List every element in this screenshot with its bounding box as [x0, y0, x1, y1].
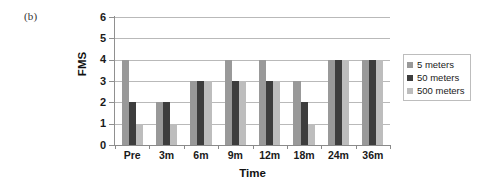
bar [136, 124, 143, 145]
x-tick-label: 36m [356, 150, 390, 161]
x-tick-label: 18m [287, 150, 321, 161]
bar [308, 124, 315, 145]
legend-item: 5 meters [407, 58, 465, 71]
y-tick-label: 0 [88, 140, 106, 151]
legend-swatch-icon [407, 88, 413, 94]
y-tick-label: 6 [88, 12, 106, 23]
legend-item: 500 meters [407, 84, 465, 97]
y-tick [109, 38, 114, 39]
x-tick [321, 145, 322, 149]
x-tick-label: 6m [184, 150, 218, 161]
y-tick-label: 5 [88, 33, 106, 44]
bar-group [225, 17, 246, 145]
y-tick-label: 3 [88, 76, 106, 87]
bar [170, 124, 177, 145]
bar [362, 60, 369, 145]
bar [293, 81, 300, 145]
x-tick-label: 3m [149, 150, 183, 161]
bar-group [293, 17, 314, 145]
legend-swatch-icon [407, 75, 413, 81]
y-tick-label: 1 [88, 118, 106, 129]
bar [190, 81, 197, 145]
bar [273, 81, 280, 145]
y-tick-label-wrap: 5 [88, 33, 106, 44]
x-tick [218, 145, 219, 149]
y-tick [109, 124, 114, 125]
bar [156, 102, 163, 145]
x-tick [149, 145, 150, 149]
y-axis-title: FMS [76, 44, 88, 84]
panel-label: (b) [24, 10, 37, 22]
bar [197, 81, 204, 145]
y-tick [109, 17, 114, 18]
plot-area [115, 17, 390, 145]
legend-label: 500 meters [417, 86, 465, 96]
bar [232, 81, 239, 145]
bar [376, 60, 383, 145]
bar-group [122, 17, 143, 145]
y-tick [109, 145, 114, 146]
bar [259, 60, 266, 145]
bar-group [259, 17, 280, 145]
figure-panel-b: (b) FMS 0123456 Pre3m6m9m12m18m24m36m Ti… [0, 0, 500, 189]
bar [328, 60, 335, 145]
x-tick [287, 145, 288, 149]
bar [225, 60, 232, 145]
y-tick-label-wrap: 1 [88, 118, 106, 129]
bar [301, 102, 308, 145]
y-tick [109, 102, 114, 103]
x-tick [115, 145, 116, 149]
bar-group [190, 17, 211, 145]
legend-item: 50 meters [407, 71, 465, 84]
y-tick-label-wrap: 3 [88, 76, 106, 87]
legend-label: 50 meters [417, 73, 459, 83]
x-tick [253, 145, 254, 149]
bar [335, 60, 342, 145]
y-tick-label-wrap: 0 [88, 140, 106, 151]
x-tick-label: 9m [218, 150, 252, 161]
y-tick [109, 60, 114, 61]
bar [266, 81, 273, 145]
bar-group [362, 17, 383, 145]
bar [204, 81, 211, 145]
y-tick-label-wrap: 4 [88, 54, 106, 65]
y-tick-label-wrap: 2 [88, 97, 106, 108]
bar [342, 60, 349, 145]
y-tick-label-wrap: 6 [88, 12, 106, 23]
y-tick-label: 2 [88, 97, 106, 108]
bar [129, 102, 136, 145]
bar-group [328, 17, 349, 145]
legend-swatch-icon [407, 62, 413, 68]
x-tick [356, 145, 357, 149]
x-tick-label: Pre [115, 150, 149, 161]
chart-legend: 5 meters50 meters500 meters [403, 54, 471, 101]
x-tick [184, 145, 185, 149]
bar [239, 81, 246, 145]
x-axis-title: Time [115, 167, 390, 179]
bar [369, 60, 376, 145]
y-tick-label: 4 [88, 54, 106, 65]
bar [122, 60, 129, 145]
x-tick-label: 24m [321, 150, 355, 161]
y-tick [109, 81, 114, 82]
x-tick [390, 145, 391, 149]
bar-group [156, 17, 177, 145]
bar [163, 102, 170, 145]
x-tick-label: 12m [253, 150, 287, 161]
legend-label: 5 meters [417, 60, 454, 70]
